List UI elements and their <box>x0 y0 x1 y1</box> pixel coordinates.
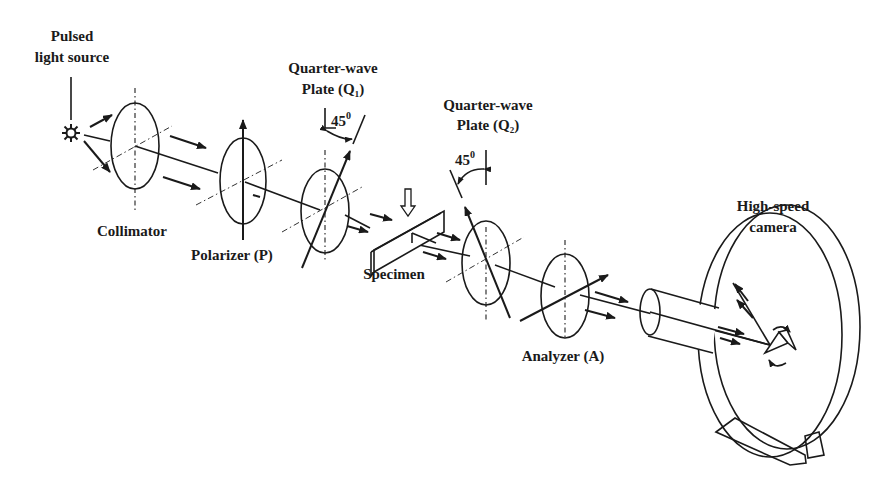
beam-arrow-cam-2 <box>720 338 740 344</box>
analyzer <box>520 240 608 340</box>
collimator-lens <box>93 88 172 213</box>
q2-fast-axis-ext <box>450 170 462 198</box>
beam-arrow-spec-upper <box>437 233 460 240</box>
specimen <box>371 189 444 276</box>
beam-arrow-upper <box>170 136 206 148</box>
q2-angle-degree: 0 <box>470 149 475 160</box>
q1-angle-degree: 0 <box>346 110 351 121</box>
label-q1-line1: Quarter-wave <box>288 60 378 76</box>
label-q2-line1: Quarter-wave <box>443 97 533 113</box>
label-camera-line2: camera <box>749 219 797 235</box>
diagram-canvas: Pulsed light source Collimator Polarizer… <box>0 0 885 482</box>
label-source-line1: Pulsed <box>51 28 94 44</box>
rotation-arrow-icon <box>769 360 786 366</box>
sun-icon <box>62 124 80 142</box>
light-source <box>62 77 112 172</box>
q2-angle-value: 45 <box>455 152 470 168</box>
analyzer-axis-arrow <box>520 275 608 321</box>
label-analyzer: Analyzer (A) <box>522 348 605 365</box>
load-arrow-icon <box>401 189 415 216</box>
beam-arrow-spec-lower <box>423 252 446 259</box>
label-source-line2: light source <box>35 49 110 65</box>
label-q1-line2: Plate (Q₁) <box>302 81 364 98</box>
quarter-wave-plate-q1 <box>282 108 365 268</box>
polarizer <box>196 120 282 240</box>
q1-fast-axis-ext <box>353 115 365 144</box>
rotating-prism <box>765 327 796 366</box>
q1-angle-arc <box>327 131 352 139</box>
quarter-wave-plate-q2 <box>446 150 524 320</box>
label-collimator: Collimator <box>97 223 167 239</box>
beam-arrow-q1-upper <box>370 214 392 220</box>
label-polarizer: Polarizer (P) <box>191 247 273 264</box>
q2-fast-axis-arrow <box>465 207 510 318</box>
beam-arrow-lower <box>163 177 200 189</box>
label-q2-line2: Plate (Q₂) <box>457 117 519 134</box>
source-ray-mid <box>84 135 110 141</box>
camera-lens-tube <box>640 289 719 353</box>
q1-angle-value: 45 <box>331 113 346 129</box>
label-q1-angle: 450 <box>331 110 351 129</box>
beam-arrow-an-lower <box>585 310 615 318</box>
high-speed-camera <box>640 205 860 465</box>
label-q2-angle: 450 <box>455 149 475 168</box>
source-ray-up <box>90 115 112 127</box>
q2-angle-arc <box>458 169 484 184</box>
label-camera-line1: High-speed <box>737 198 810 214</box>
beam-arrow-q1-lower <box>347 226 368 232</box>
label-specimen: Specimen <box>363 266 425 282</box>
beam-stub <box>253 195 260 197</box>
